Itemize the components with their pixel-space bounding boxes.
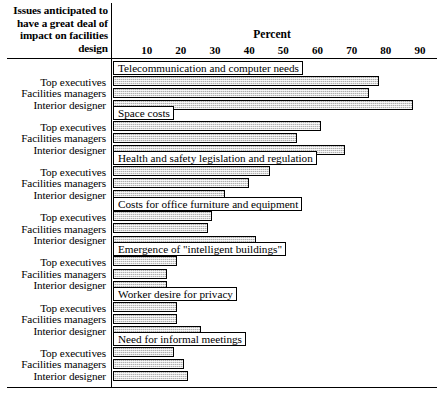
bar (113, 76, 379, 86)
x-tick-90: 90 (408, 44, 432, 56)
bar (113, 359, 184, 369)
bar-group: Emergence of "intelligent buildings"Top … (0, 242, 443, 287)
corner-title-line: design (4, 42, 108, 55)
bar-group: Health and safety legislation and regula… (0, 151, 443, 196)
category-label: Top executives (0, 212, 106, 224)
bar (113, 166, 270, 176)
bar-group: Worker desire for privacyTop executivesF… (0, 287, 443, 332)
x-tick-60: 60 (306, 44, 330, 56)
bar (113, 211, 212, 221)
bar-group: Space costsTop executivesFacilities mana… (0, 106, 443, 151)
bar (113, 133, 297, 143)
horizontal-bar-chart: Issues anticipated tohave a great deal o… (0, 0, 443, 406)
group-header-label: Health and safety legislation and regula… (113, 151, 317, 165)
x-axis-title: Percent (112, 28, 432, 40)
group-header-label: Emergence of "intelligent buildings" (113, 242, 286, 256)
group-header-label: Need for informal meetings (113, 332, 246, 346)
bar (113, 88, 369, 98)
bar (113, 302, 177, 312)
x-tick-80: 80 (374, 44, 398, 56)
x-tick-10: 10 (135, 44, 159, 56)
bar (113, 347, 174, 357)
category-label: Facilities managers (0, 88, 106, 100)
top-rule (7, 58, 437, 59)
x-tick-50: 50 (271, 44, 295, 56)
group-header-label: Telecommunication and computer needs (113, 61, 303, 75)
category-label: Interior designer (0, 371, 106, 383)
x-tick-40: 40 (237, 44, 261, 56)
bar-group: Need for informal meetingsTop executives… (0, 332, 443, 377)
x-tick-20: 20 (169, 44, 193, 56)
corner-title-line: Issues anticipated to (4, 4, 108, 17)
bar-group: Costs for office furniture and equipment… (0, 197, 443, 242)
bar-group: Telecommunication and computer needsTop … (0, 61, 443, 106)
x-tick-30: 30 (203, 44, 227, 56)
bar (113, 178, 249, 188)
group-header-label: Costs for office furniture and equipment (113, 197, 302, 211)
bottom-rule (7, 387, 437, 388)
x-tick-70: 70 (340, 44, 364, 56)
group-header-label: Worker desire for privacy (113, 287, 237, 301)
bar (113, 371, 188, 381)
corner-title-line: impact on facilities (4, 29, 108, 42)
bar (113, 121, 321, 131)
bar (113, 269, 167, 279)
bar (113, 256, 177, 266)
category-label: Facilities managers (0, 314, 106, 326)
group-header-label: Space costs (113, 106, 174, 120)
chart-corner-title: Issues anticipated tohave a great deal o… (4, 4, 108, 54)
corner-title-line: have a great deal of (4, 17, 108, 30)
bar (113, 314, 177, 324)
bar (113, 223, 208, 233)
category-label-group: Top executivesFacilities managersInterio… (0, 348, 106, 383)
